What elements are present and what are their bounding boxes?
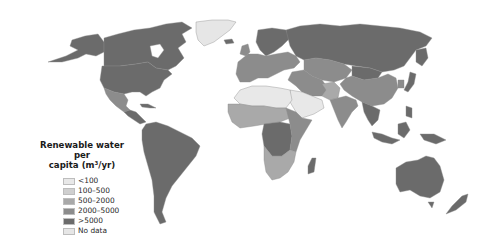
legend-swatch: [63, 188, 75, 195]
legend-item-100-500: 100–500: [63, 186, 150, 196]
legend-item-lt100: <100: [63, 176, 150, 186]
legend-label: 100–500: [78, 186, 110, 196]
legend-swatch: [63, 228, 75, 235]
region-iceland: [224, 39, 234, 44]
region-madagascar: [308, 158, 316, 174]
region-alaska: [48, 34, 104, 62]
legend-label: 500–2000: [78, 196, 115, 206]
legend-item-2000-5000: 2000–5000: [63, 206, 150, 216]
region-korea: [398, 80, 404, 88]
legend-label: <100: [78, 176, 98, 186]
region-australia: [396, 156, 444, 198]
region-new-guinea: [420, 134, 446, 144]
legend-swatch: [63, 208, 75, 215]
legend-item-no-data: No data: [63, 226, 150, 236]
map-legend: Renewable water per capita (m³/yr) <100 …: [40, 140, 150, 236]
legend-swatch: [63, 198, 75, 205]
region-scandinavia: [256, 28, 290, 56]
legend-item-500-2000: 500–2000: [63, 196, 150, 206]
legend-swatch: [63, 178, 75, 185]
legend-items: <100 100–500 500–2000 2000–5000 >5000 No…: [63, 176, 150, 236]
region-caribbean: [140, 104, 156, 108]
legend-label: No data: [78, 226, 107, 236]
region-tasmania: [428, 202, 434, 208]
region-south-america: [142, 122, 200, 224]
legend-item-gt5000: >5000: [63, 216, 150, 226]
region-japan: [404, 72, 416, 92]
legend-title-line2: capita (m³/yr): [40, 160, 124, 170]
legend-swatch: [63, 218, 75, 225]
region-india: [330, 96, 358, 128]
region-central-america: [124, 110, 146, 124]
region-new-zealand: [446, 194, 468, 214]
region-borneo: [398, 122, 410, 138]
region-indonesia: [372, 132, 400, 144]
legend-title: Renewable water per capita (m³/yr): [40, 140, 124, 170]
region-russia-east: [416, 48, 428, 66]
legend-label: >5000: [78, 216, 103, 226]
region-southeast-asia: [362, 102, 380, 126]
legend-label: 2000–5000: [78, 206, 119, 216]
region-philippines: [406, 106, 412, 118]
legend-title-line1: Renewable water per: [40, 140, 124, 160]
